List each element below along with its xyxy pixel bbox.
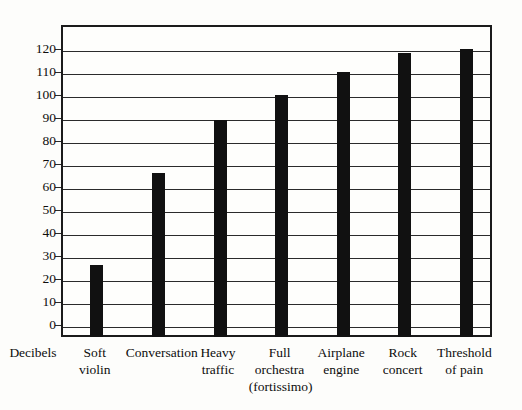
- bar: [398, 53, 411, 337]
- y-tick-label-60: 60: [43, 180, 57, 194]
- x-axis-label: Conversation: [126, 344, 188, 361]
- x-axis-label: Thresholdof pain: [434, 344, 496, 378]
- y-tick-label-30: 30: [43, 249, 57, 263]
- x-axis-label: Airplaneengine: [310, 344, 372, 378]
- x-axis-label-line: engine: [310, 361, 372, 378]
- y-tick-label-120: 120: [36, 42, 56, 56]
- x-axis-label-line: concert: [372, 361, 434, 378]
- y-tick-label-40: 40: [43, 226, 57, 240]
- x-axis-label-line: Full: [249, 344, 311, 361]
- x-axis-label-line: Threshold: [434, 344, 496, 361]
- y-tick-label-110: 110: [36, 65, 56, 79]
- gridline-120: [63, 51, 490, 52]
- x-axis-title: Decibels: [4, 344, 62, 361]
- gridline-110: [63, 74, 490, 75]
- bar: [460, 49, 473, 337]
- x-axis-label-line: Airplane: [310, 344, 372, 361]
- bar: [90, 265, 103, 337]
- plot-area: [61, 25, 492, 337]
- y-tick-label-90: 90: [43, 111, 57, 125]
- x-axis-label-line: violin: [64, 361, 126, 378]
- x-axis-label: Softviolin: [64, 344, 126, 378]
- y-tick-label-0: 0: [49, 318, 56, 332]
- y-tick-label-70: 70: [43, 157, 57, 171]
- x-axis-label-line: Conversation: [126, 344, 188, 361]
- x-axis-label-line: of pain: [434, 361, 496, 378]
- y-tick-label-100: 100: [36, 88, 56, 102]
- x-axis-label-line: (fortissimo): [249, 378, 311, 395]
- y-tick-label-80: 80: [43, 134, 57, 148]
- x-axis-label-line: Rock: [372, 344, 434, 361]
- x-axis-label-line: traffic: [187, 361, 249, 378]
- x-axis-label-line: Soft: [64, 344, 126, 361]
- decibel-bar-chart: 0102030405060708090100110120 Decibels So…: [0, 0, 522, 410]
- y-tick-label-10: 10: [43, 295, 57, 309]
- y-tick-label-50: 50: [43, 203, 57, 217]
- x-axis-label: Fullorchestra(fortissimo): [249, 344, 311, 395]
- x-axis-labels: Decibels SoftviolinConversationHeavytraf…: [0, 344, 522, 410]
- x-axis-label-line: orchestra: [249, 361, 311, 378]
- y-tick-label-20: 20: [43, 272, 57, 286]
- x-axis-label: Rockconcert: [372, 344, 434, 378]
- x-axis-label: Heavytraffic: [187, 344, 249, 378]
- bar: [275, 95, 288, 337]
- x-axis-label-line: Heavy: [187, 344, 249, 361]
- bar: [337, 72, 350, 337]
- bar: [152, 173, 165, 337]
- bar: [214, 120, 227, 337]
